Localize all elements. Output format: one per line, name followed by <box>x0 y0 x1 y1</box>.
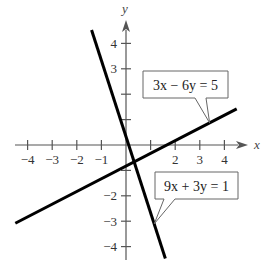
x-tick-label: −2 <box>70 152 84 167</box>
x-tick-label: −3 <box>45 152 59 167</box>
callout-text-2: 9x + 3y = 1 <box>164 179 229 194</box>
x-tick-label: −4 <box>21 152 35 167</box>
y-axis-label: y <box>120 1 128 16</box>
chart: xy −4−3−2−1234−4−3−234 3x − 6y = 59x + 3… <box>0 0 271 270</box>
x-axis-label: x <box>253 137 260 152</box>
x-tick-label: 4 <box>221 152 228 167</box>
y-tick-label: −2 <box>103 188 117 203</box>
callout-text-1: 3x − 6y = 5 <box>153 78 218 93</box>
x-tick-label: 3 <box>197 152 204 167</box>
y-tick-label: −4 <box>103 239 117 254</box>
y-tick-label: 3 <box>111 61 118 76</box>
y-tick-label: −3 <box>103 214 117 229</box>
x-tick-label: −1 <box>94 152 108 167</box>
x-tick-label: 2 <box>172 152 179 167</box>
y-tick-label: 4 <box>111 36 118 51</box>
callouts: 3x − 6y = 59x + 3y = 1 <box>143 71 238 224</box>
axes: xy <box>15 1 260 260</box>
